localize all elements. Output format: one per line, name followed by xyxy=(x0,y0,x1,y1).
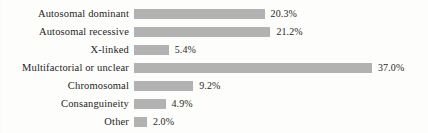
bar-track: 20.3% xyxy=(134,5,428,23)
bar-category-label: Autosomal dominant xyxy=(0,8,134,20)
bar-chart-row: Autosomal dominant20.3% xyxy=(0,5,428,23)
bar-category-label: Chromosomal xyxy=(0,80,134,92)
bar-value-label: 9.2% xyxy=(193,80,220,92)
bar-track: 9.2% xyxy=(134,77,428,95)
bar-chart-row: Other2.0% xyxy=(0,113,428,131)
bar-category-label: Autosomal recessive xyxy=(0,26,134,38)
bar-category-label: Other xyxy=(0,116,134,128)
bar xyxy=(134,9,265,19)
bar-chart-row: Autosomal recessive21.2% xyxy=(0,23,428,41)
bar-value-label: 21.2% xyxy=(270,26,302,38)
bar-value-label: 2.0% xyxy=(147,116,174,128)
bar-category-label: X-linked xyxy=(0,44,134,56)
bar xyxy=(134,99,166,109)
bar xyxy=(134,63,372,73)
bar-chart-row: X-linked5.4% xyxy=(0,41,428,59)
bar-value-label: 4.9% xyxy=(166,98,193,110)
bar-category-label: Multifactorial or unclear xyxy=(0,62,134,74)
bar-chart-row: Chromosomal9.2% xyxy=(0,77,428,95)
bar-chart-rows: Autosomal dominant20.3%Autosomal recessi… xyxy=(0,5,428,131)
bar-category-label: Consanguineity xyxy=(0,98,134,110)
bar-track: 21.2% xyxy=(134,23,428,41)
bar-value-label: 20.3% xyxy=(265,8,297,20)
bar-value-label: 5.4% xyxy=(169,44,196,56)
bar xyxy=(134,45,169,55)
bar xyxy=(134,81,193,91)
bar-chart-row: Multifactorial or unclear37.0% xyxy=(0,59,428,77)
bar xyxy=(134,27,270,37)
bar-track: 5.4% xyxy=(134,41,428,59)
bar-track: 37.0% xyxy=(134,59,428,77)
bar-value-label: 37.0% xyxy=(372,62,404,74)
bar-track: 4.9% xyxy=(134,95,428,113)
bar-chart: Autosomal dominant20.3%Autosomal recessi… xyxy=(0,0,428,133)
bar xyxy=(134,117,147,127)
bar-track: 2.0% xyxy=(134,113,428,131)
bar-chart-row: Consanguineity4.9% xyxy=(0,95,428,113)
